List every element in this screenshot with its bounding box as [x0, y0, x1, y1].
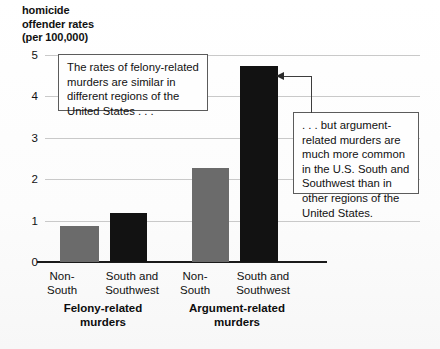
y-tick-1: 1 [32, 216, 38, 228]
leader-line-vertical [311, 76, 312, 113]
category-label-argument-non-south: Non- South [169, 270, 221, 297]
y-tick-3: 3 [32, 133, 38, 145]
annotation-callout-right: . . . but argument-related murders are m… [293, 112, 419, 194]
category-label-felony-south-southwest: South and Southwest [92, 270, 172, 297]
leader-line-horizontal [283, 76, 312, 77]
category-label-argument-south-southwest: South and Southwest [222, 270, 304, 297]
group-label-felony-related: Felony-related murders [38, 301, 168, 329]
gridline-1 [45, 221, 420, 222]
bar-felony-south-southwest [110, 213, 147, 262]
y-tick-2: 2 [32, 174, 38, 186]
bar-argument-south-southwest [240, 66, 278, 262]
chart-figure: homicide offender rates (per 100,000) 5 … [0, 0, 440, 349]
bar-argument-non-south [192, 168, 229, 262]
bar-felony-non-south [60, 226, 99, 262]
y-tick-4: 4 [32, 91, 38, 103]
annotation-callout-left: The rates of felony-related murders are … [58, 54, 208, 111]
y-axis-title: homicide offender rates (per 100,000) [22, 4, 94, 45]
group-label-argument-related: Argument-related murders [167, 301, 307, 329]
arrow-icon [276, 72, 284, 80]
category-label-felony-non-south: Non- South [36, 270, 88, 297]
y-tick-5: 5 [32, 50, 38, 62]
y-tick-0: 0 [32, 257, 38, 269]
